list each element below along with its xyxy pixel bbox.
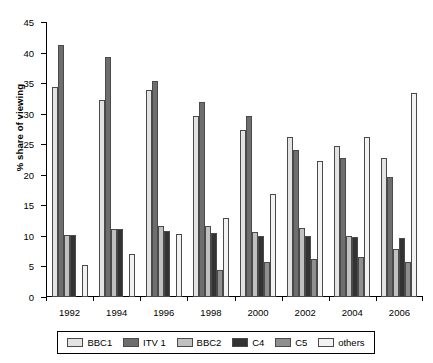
legend-item-c5[interactable]: C5 <box>275 337 307 348</box>
legend-swatch-icon <box>232 338 248 347</box>
legend-item-bbc2[interactable]: BBC2 <box>177 337 222 348</box>
x-axis-tick <box>187 297 188 301</box>
legend-label: ITV 1 <box>143 337 166 348</box>
legend-swatch-icon <box>177 338 193 347</box>
y-axis-tick: 25 <box>41 144 46 145</box>
x-axis-tick-label: 2002 <box>295 307 316 318</box>
legend-label: BBC2 <box>197 337 222 348</box>
y-axis-tick: 10 <box>41 236 46 237</box>
x-axis-tick-label: 1994 <box>106 307 127 318</box>
x-axis-tick <box>329 297 330 301</box>
y-axis-tick-label: 25 <box>23 139 34 150</box>
legend-item-c4[interactable]: C4 <box>232 337 264 348</box>
plot-area: 051015202530354045 199219941996199820002… <box>46 22 423 297</box>
bar-others-1992 <box>82 265 88 297</box>
legend-label: others <box>338 337 364 348</box>
legend-swatch-icon <box>67 338 83 347</box>
y-axis-tick-label: 5 <box>29 261 34 272</box>
legend-label: C5 <box>295 337 307 348</box>
bar-others-1996 <box>176 234 182 297</box>
x-axis-tick-label: 1992 <box>59 307 80 318</box>
legend-item-bbc1[interactable]: BBC1 <box>67 337 112 348</box>
legend-label: BBC1 <box>87 337 112 348</box>
y-axis-tick-label: 45 <box>23 17 34 28</box>
y-axis-line <box>46 22 47 297</box>
y-axis-tick-label: 10 <box>23 230 34 241</box>
legend-label: C4 <box>252 337 264 348</box>
y-axis-tick-label: 35 <box>23 78 34 89</box>
legend-item-others[interactable]: others <box>318 337 364 348</box>
x-axis-tick-label: 1996 <box>153 307 174 318</box>
x-axis-tick <box>282 297 283 301</box>
y-axis-tick: 40 <box>41 53 46 54</box>
bar-c4-1994 <box>117 229 123 297</box>
y-axis-tick: 35 <box>41 83 46 84</box>
x-axis-tick <box>422 297 423 301</box>
y-axis-tick-label: 20 <box>23 169 34 180</box>
bar-c4-1996 <box>164 231 170 297</box>
x-axis-tick-label: 1998 <box>200 307 221 318</box>
x-axis-tick <box>140 297 141 301</box>
y-axis-tick: 15 <box>41 205 46 206</box>
legend-swatch-icon <box>275 338 291 347</box>
bar-chart: % share of viewing 051015202530354045 19… <box>0 0 433 363</box>
x-axis-tick <box>235 297 236 301</box>
y-axis-tick: 20 <box>41 175 46 176</box>
x-axis-tick <box>46 297 47 301</box>
y-axis-tick-label: 15 <box>23 200 34 211</box>
bar-others-1998 <box>223 218 229 297</box>
legend-item-itv1[interactable]: ITV 1 <box>123 337 166 348</box>
legend-swatch-icon <box>318 338 334 347</box>
bar-others-2000 <box>270 194 276 297</box>
bar-others-2006 <box>411 93 417 297</box>
chart-legend: BBC1ITV 1BBC2C4C5others <box>57 331 375 354</box>
y-axis-tick: 45 <box>41 22 46 23</box>
bar-others-2002 <box>317 161 323 297</box>
bar-others-1994 <box>129 254 135 297</box>
y-axis-tick-label: 30 <box>23 108 34 119</box>
y-axis-tick: 5 <box>41 266 46 267</box>
y-axis-tick-label: 40 <box>23 47 34 58</box>
x-axis-tick-label: 2000 <box>247 307 268 318</box>
x-axis-tick-label: 2004 <box>342 307 363 318</box>
x-axis-tick <box>93 297 94 301</box>
bar-c4-1992 <box>70 235 76 297</box>
bar-others-2004 <box>364 137 370 297</box>
x-axis-tick-label: 2006 <box>389 307 410 318</box>
y-axis-tick: 30 <box>41 114 46 115</box>
legend-swatch-icon <box>123 338 139 347</box>
x-axis-tick <box>376 297 377 301</box>
y-axis-tick-label: 0 <box>29 292 34 303</box>
